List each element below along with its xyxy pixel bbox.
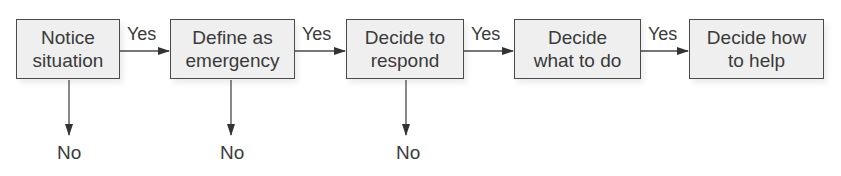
step-label-line1: Define as: [186, 26, 280, 49]
yes-label-1: Yes: [127, 24, 156, 45]
step-decide-what-to-do: Decidewhat to do: [514, 19, 641, 79]
step-label-line1: Notice: [33, 26, 104, 49]
step-notice-situation: Noticesituation: [16, 19, 120, 79]
step-decide-to-respond: Decide torespond: [346, 19, 464, 79]
yes-label-3: Yes: [471, 24, 500, 45]
step-define-emergency: Define asemergency: [170, 19, 295, 79]
yes-label-4: Yes: [648, 24, 677, 45]
yes-label-2: Yes: [302, 24, 331, 45]
step-label-line1: Decide to: [365, 26, 445, 49]
step-decide-how-to-help: Decide howto help: [689, 19, 824, 79]
step-label-line1: Decide: [534, 26, 622, 49]
no-label-3: No: [396, 142, 420, 164]
no-label-2: No: [220, 142, 244, 164]
step-label-line2: respond: [365, 49, 445, 72]
step-label-line2: situation: [33, 49, 104, 72]
step-label-line1: Decide how: [707, 26, 806, 49]
no-label-1: No: [57, 142, 81, 164]
step-label-line2: what to do: [534, 49, 622, 72]
step-label-line2: to help: [707, 49, 806, 72]
step-label-line2: emergency: [186, 49, 280, 72]
